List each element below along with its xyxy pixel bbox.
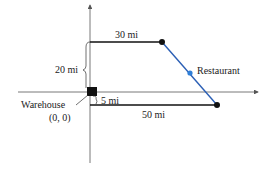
vertical-label: 20 mi bbox=[55, 64, 78, 75]
bottom-end-point bbox=[214, 102, 220, 108]
warehouse-label: Warehouse bbox=[21, 99, 66, 110]
restaurant-point bbox=[187, 70, 192, 75]
warehouse-restaurant-diagram: 30 mi 20 mi Restaurant Warehouse (0, 0) … bbox=[0, 0, 273, 177]
bottom-segment-label: 50 mi bbox=[142, 109, 165, 120]
restaurant-label: Restaurant bbox=[197, 65, 240, 76]
offset-label: 5 mi bbox=[101, 95, 119, 106]
origin-label: (0, 0) bbox=[49, 112, 71, 124]
top-segment-label: 30 mi bbox=[115, 29, 138, 40]
warehouse-marker bbox=[87, 87, 97, 96]
offset-brace bbox=[93, 96, 97, 104]
vertical-brace bbox=[83, 42, 90, 88]
top-end-point bbox=[159, 39, 165, 45]
warehouse-leader bbox=[76, 95, 88, 105]
